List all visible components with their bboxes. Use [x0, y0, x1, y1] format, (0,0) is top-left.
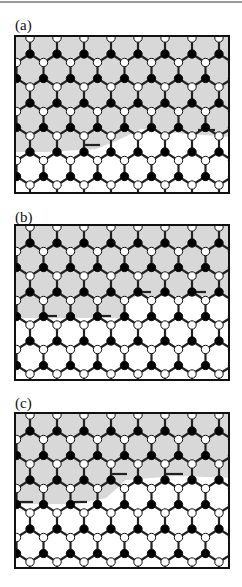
black-atom	[26, 288, 34, 296]
black-atom	[134, 427, 142, 435]
black-atom	[201, 172, 209, 180]
white-atom	[53, 181, 61, 189]
black-atom	[161, 239, 169, 247]
white-atom	[80, 370, 88, 378]
black-atom	[161, 476, 169, 484]
black-atom	[16, 549, 21, 557]
black-atom	[147, 123, 155, 131]
white-atom	[161, 321, 169, 329]
black-atom	[80, 427, 88, 435]
black-atom	[93, 263, 101, 271]
black-atom	[66, 312, 74, 320]
white-atom	[134, 370, 142, 378]
black-atom	[107, 525, 115, 533]
white-atom	[53, 37, 61, 42]
black-atom	[93, 500, 101, 508]
white-atom	[215, 321, 223, 329]
black-atom	[215, 427, 223, 435]
black-atom	[147, 451, 155, 459]
white-atom	[215, 83, 223, 91]
black-atom	[134, 99, 142, 107]
white-atom	[80, 272, 88, 280]
black-atom	[174, 263, 182, 271]
white-atom	[201, 247, 209, 255]
white-atom	[201, 156, 209, 164]
black-atom	[215, 99, 223, 107]
white-atom	[66, 435, 74, 443]
white-atom	[174, 296, 182, 304]
black-atom	[93, 172, 101, 180]
black-atom	[39, 172, 47, 180]
black-atom	[161, 525, 169, 533]
white-atom	[26, 321, 34, 329]
black-atom	[147, 172, 155, 180]
white-atom	[161, 226, 169, 231]
black-atom	[120, 123, 128, 131]
white-atom	[215, 181, 223, 189]
white-atom	[215, 226, 223, 231]
white-atom	[93, 345, 101, 353]
white-atom	[147, 435, 155, 443]
black-atom	[16, 263, 21, 271]
white-atom	[147, 247, 155, 255]
black-atom	[26, 239, 34, 247]
black-atom	[66, 74, 74, 82]
black-atom	[26, 427, 34, 435]
black-atom	[201, 549, 209, 557]
black-atom	[80, 99, 88, 107]
white-atom	[66, 156, 74, 164]
panel-label-b: (b)	[15, 210, 33, 225]
white-atom	[161, 181, 169, 189]
black-atom	[26, 99, 34, 107]
black-atom	[93, 123, 101, 131]
panel-a-lattice	[14, 35, 230, 194]
white-atom	[53, 132, 61, 140]
black-atom	[161, 427, 169, 435]
white-atom	[107, 414, 115, 419]
black-atom	[201, 500, 209, 508]
black-atom	[53, 288, 61, 296]
black-atom	[174, 172, 182, 180]
white-atom	[53, 370, 61, 378]
white-atom	[80, 83, 88, 91]
white-atom	[66, 345, 74, 353]
white-atom	[16, 533, 21, 541]
white-atom	[161, 37, 169, 42]
white-atom	[107, 272, 115, 280]
black-atom	[147, 74, 155, 82]
lattice-svg	[16, 37, 228, 192]
white-atom	[147, 484, 155, 492]
white-atom	[26, 37, 34, 42]
white-atom	[188, 37, 196, 42]
white-atom	[120, 156, 128, 164]
black-atom	[174, 549, 182, 557]
black-atom	[134, 337, 142, 345]
white-atom	[80, 181, 88, 189]
white-atom	[26, 272, 34, 280]
black-atom	[161, 288, 169, 296]
white-atom	[188, 321, 196, 329]
white-atom	[16, 58, 21, 66]
black-atom	[201, 361, 209, 369]
white-atom	[53, 558, 61, 566]
white-atom	[26, 132, 34, 140]
white-atom	[107, 321, 115, 329]
black-atom	[26, 525, 34, 533]
white-atom	[174, 533, 182, 541]
black-atom	[16, 172, 21, 180]
white-atom	[26, 226, 34, 231]
white-atom	[215, 37, 223, 42]
white-atom	[66, 533, 74, 541]
black-atom	[215, 476, 223, 484]
black-atom	[188, 50, 196, 58]
white-atom	[147, 533, 155, 541]
white-atom	[26, 83, 34, 91]
black-atom	[174, 74, 182, 82]
black-atom	[120, 172, 128, 180]
white-atom	[93, 484, 101, 492]
black-atom	[107, 288, 115, 296]
white-atom	[134, 132, 142, 140]
white-atom	[107, 226, 115, 231]
black-atom	[174, 361, 182, 369]
white-atom	[120, 296, 128, 304]
